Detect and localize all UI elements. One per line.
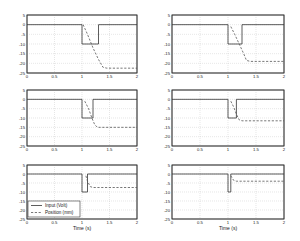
y-tick-label: 0 bbox=[168, 172, 171, 177]
x-tick-label: 1 bbox=[81, 74, 84, 79]
panel-row3-col2: 00.511.5250-5-10-15-20-25 bbox=[164, 163, 286, 226]
y-tick-label: -5 bbox=[166, 32, 170, 37]
x-tick-label: 0.5 bbox=[52, 220, 58, 225]
y-tick-label: -10 bbox=[164, 116, 171, 121]
y-tick-label: -20 bbox=[164, 61, 171, 66]
y-tick-label: -15 bbox=[164, 125, 171, 130]
y-tick-label: -5 bbox=[21, 181, 25, 186]
x-tick-label: 1.5 bbox=[253, 74, 259, 79]
x-tick-label: 0 bbox=[171, 147, 174, 152]
x-tick-label: 0 bbox=[26, 74, 29, 79]
y-tick-label: -5 bbox=[166, 106, 170, 111]
x-tick-label: 0 bbox=[171, 220, 174, 225]
y-tick-label: -15 bbox=[19, 125, 26, 130]
figure: 00.511.5250-5-10-15-20-25 00.511.5250-5-… bbox=[0, 0, 300, 241]
y-tick-label: -5 bbox=[166, 181, 170, 186]
y-tick-label: -25 bbox=[164, 71, 171, 76]
y-tick-label: 5 bbox=[23, 163, 26, 168]
y-tick-label: -10 bbox=[19, 116, 26, 121]
x-tick-label: 1 bbox=[81, 147, 84, 152]
x-tick-label: 1.5 bbox=[107, 74, 113, 79]
y-tick-label: -15 bbox=[19, 51, 26, 56]
y-tick-label: -10 bbox=[164, 190, 171, 195]
y-tick-label: -25 bbox=[164, 217, 171, 222]
x-tick-label: 2 bbox=[136, 147, 139, 152]
legend: Input (Volt) Position (mm) bbox=[28, 201, 80, 217]
y-tick-label: -20 bbox=[19, 134, 26, 139]
y-tick-label: 5 bbox=[23, 13, 26, 18]
y-tick-label: 0 bbox=[168, 97, 171, 102]
x-tick-label: 0.5 bbox=[197, 147, 203, 152]
y-tick-label: -25 bbox=[19, 217, 26, 222]
x-tick-label: 1.5 bbox=[253, 220, 259, 225]
y-tick-label: -25 bbox=[19, 71, 26, 76]
y-tick-label: -20 bbox=[19, 208, 26, 213]
y-tick-label: -5 bbox=[21, 106, 25, 111]
x-tick-label: 0 bbox=[26, 220, 29, 225]
y-tick-label: -10 bbox=[19, 190, 26, 195]
y-tick-label: 0 bbox=[168, 22, 171, 27]
x-tick-label: 1.5 bbox=[107, 147, 113, 152]
y-tick-label: 5 bbox=[168, 88, 171, 93]
x-tick-label: 0.5 bbox=[197, 220, 203, 225]
y-tick-label: 5 bbox=[168, 163, 171, 168]
x-tick-label: 2 bbox=[283, 74, 286, 79]
x-tick-label: 1 bbox=[227, 74, 230, 79]
x-axis-label-right: Time (s) bbox=[219, 225, 237, 231]
y-tick-label: 5 bbox=[23, 88, 26, 93]
x-tick-label: 2 bbox=[136, 74, 139, 79]
y-tick-label: -20 bbox=[164, 208, 171, 213]
panel-row2-col1: 00.511.5250-5-10-15-20-25 bbox=[19, 88, 139, 153]
y-tick-label: -15 bbox=[164, 199, 171, 204]
x-tick-label: 1.5 bbox=[107, 220, 113, 225]
x-tick-label: 2 bbox=[283, 147, 286, 152]
y-tick-label: -25 bbox=[164, 144, 171, 149]
x-axis-label-left: Time (s) bbox=[73, 225, 91, 231]
y-tick-label: -20 bbox=[19, 61, 26, 66]
panel-row1-col1: 00.511.5250-5-10-15-20-25 bbox=[19, 13, 139, 80]
x-tick-label: 0 bbox=[26, 147, 29, 152]
panel-row1-col2: 00.511.5250-5-10-15-20-25 bbox=[164, 13, 286, 80]
y-tick-label: -15 bbox=[19, 199, 26, 204]
y-tick-label: -15 bbox=[164, 51, 171, 56]
y-tick-label: 0 bbox=[23, 172, 26, 177]
x-tick-label: 2 bbox=[136, 220, 139, 225]
y-tick-label: -25 bbox=[19, 144, 26, 149]
y-tick-label: -5 bbox=[21, 32, 25, 37]
legend-input-label: Input (Volt) bbox=[45, 203, 68, 208]
y-tick-label: 0 bbox=[23, 22, 26, 27]
x-tick-label: 0.5 bbox=[197, 74, 203, 79]
x-tick-label: 0.5 bbox=[52, 147, 58, 152]
y-tick-label: 5 bbox=[168, 13, 171, 18]
legend-position-label: Position (mm) bbox=[45, 210, 74, 215]
x-tick-label: 0.5 bbox=[52, 74, 58, 79]
y-tick-label: -20 bbox=[164, 134, 171, 139]
x-tick-label: 1.5 bbox=[253, 147, 259, 152]
y-tick-label: -10 bbox=[164, 42, 171, 47]
panel-row2-col2: 00.511.5250-5-10-15-20-25 bbox=[164, 88, 286, 153]
x-tick-label: 0 bbox=[171, 74, 174, 79]
y-tick-label: 0 bbox=[23, 97, 26, 102]
x-tick-label: 2 bbox=[283, 220, 286, 225]
x-tick-label: 1 bbox=[227, 147, 230, 152]
y-tick-label: -10 bbox=[19, 42, 26, 47]
